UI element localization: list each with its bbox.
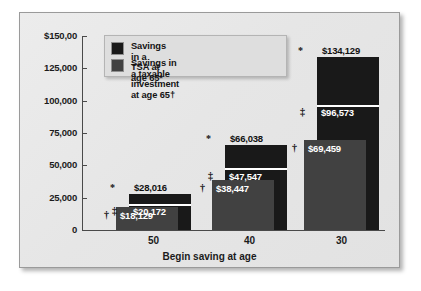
marker-dagger-50: † [104, 209, 109, 220]
y-axis-label-wrap: 75,000 [20, 128, 77, 138]
marker-star-30: * [298, 45, 303, 56]
y-axis-label-wrap: 125,000 [20, 63, 77, 73]
chart-root: $150,00125,000100,00075,00050,00025,0000… [0, 0, 421, 291]
marker-star-50: * [110, 182, 115, 193]
y-axis-label: 0 [20, 225, 77, 235]
value-label-tsa-40: $66,038 [230, 133, 263, 144]
value-label-taxable-40: $38,447 [216, 183, 249, 194]
marker-dagger-30: † [292, 142, 297, 153]
value-label-tsa-net-40: $47,547 [229, 171, 262, 182]
legend-swatch-taxable [111, 59, 124, 72]
y-axis-label: 50,000 [20, 160, 77, 170]
marker-double-dagger-50: ‡ [112, 205, 117, 216]
x-axis-label-30: 30 [297, 235, 387, 246]
legend: Savings in a TSA at age 65* Savings in a… [104, 35, 287, 77]
plot-area: $150,00125,000100,00075,00050,00025,0000… [20, 13, 399, 267]
y-tick [82, 165, 87, 166]
value-label-tsa-50: $28,016 [134, 182, 167, 193]
y-axis-label-wrap: 100,000 [20, 96, 77, 106]
y-axis-label: 125,000 [20, 63, 77, 73]
y-tick [82, 68, 87, 69]
value-label-tsa-30: $134,129 [322, 45, 360, 56]
y-axis-label: $150,00 [20, 31, 77, 41]
y-axis-label-wrap: $150,00 [20, 31, 77, 41]
y-tick [82, 36, 87, 37]
marker-dagger-40: † [200, 182, 205, 193]
y-axis-label: 25,000 [20, 193, 77, 203]
y-axis-label: 100,000 [20, 96, 77, 106]
legend-label-taxable: Savings in a taxable investment at age 6… [131, 58, 179, 100]
value-label-taxable-30: $69,459 [308, 143, 341, 154]
x-axis-title: Begin saving at age [20, 251, 399, 262]
y-axis-label-wrap: 25,000 [20, 193, 77, 203]
marker-star-40: * [206, 133, 211, 144]
legend-swatch-tsa [111, 42, 124, 55]
x-axis-label-40: 40 [205, 235, 295, 246]
y-tick [82, 230, 87, 231]
y-tick [82, 198, 87, 199]
y-tick [82, 101, 87, 102]
chart-panel: $150,00125,000100,00075,00050,00025,0000… [19, 12, 400, 268]
y-axis-label-wrap: 50,000 [20, 160, 77, 170]
y-axis-label-wrap: 0 [20, 225, 77, 235]
x-axis-label-50: 50 [109, 235, 199, 246]
value-label-taxable-50: $18,129 [120, 210, 153, 221]
marker-double-dagger-40: ‡ [208, 170, 213, 181]
value-label-tsa-net-30: $96,573 [321, 107, 354, 118]
marker-double-dagger-30: ‡ [300, 106, 305, 117]
x-axis-line [82, 230, 385, 231]
y-axis-label: 75,000 [20, 128, 77, 138]
y-tick [82, 133, 87, 134]
